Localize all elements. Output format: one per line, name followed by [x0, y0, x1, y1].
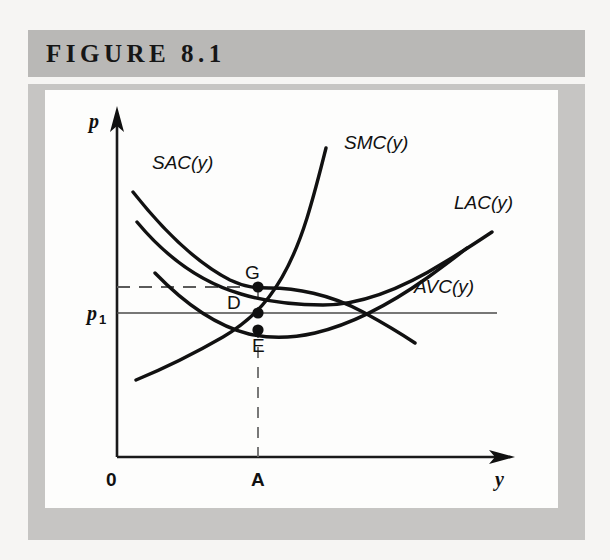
curve-label-lac: LAC(y) [454, 192, 513, 213]
tick-label-a: A [251, 469, 265, 490]
curve-labels-group: SAC(y) SMC(y) LAC(y) AVC(y) [152, 132, 513, 297]
curve-label-sac: SAC(y) [152, 152, 213, 173]
curve-smc [136, 148, 326, 380]
reference-lines-group [117, 287, 497, 457]
cost-curves-chart: SAC(y) SMC(y) LAC(y) AVC(y) G D E p y 0 … [45, 90, 558, 508]
point-marker-g [252, 281, 263, 292]
tick-label-p1: p 1 [85, 302, 106, 327]
axis-labels-group: p y 0 A p 1 [85, 110, 504, 491]
point-markers-group [252, 281, 263, 335]
tick-label-zero: 0 [106, 469, 117, 490]
axis-label-p: p [87, 110, 99, 133]
curves-group [133, 148, 492, 380]
curve-label-smc: SMC(y) [344, 132, 408, 153]
point-label-g: G [245, 262, 260, 283]
price-subscript-1: 1 [99, 312, 106, 327]
point-label-d: D [227, 292, 241, 313]
curve-sac [133, 192, 415, 343]
point-marker-d [252, 307, 263, 318]
price-symbol-p: p [85, 302, 97, 325]
point-label-e: E [252, 335, 265, 356]
curve-label-avc: AVC(y) [413, 276, 474, 297]
point-marker-e [252, 324, 263, 335]
figure-title: FIGURE 8.1 [46, 40, 226, 68]
axis-label-y: y [493, 468, 504, 491]
